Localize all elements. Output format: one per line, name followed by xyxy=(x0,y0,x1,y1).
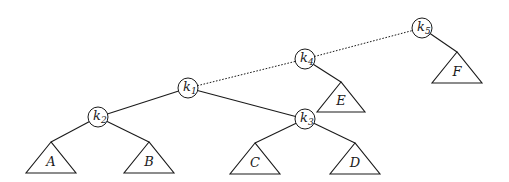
subtree-label: D xyxy=(349,155,361,170)
edge-k1-k2 xyxy=(98,88,188,117)
subtree-D: D xyxy=(330,143,380,174)
nodes-layer: k1k2k3k4k5 xyxy=(88,18,432,129)
subtree-C: C xyxy=(230,143,280,174)
subtree-label: A xyxy=(45,154,55,169)
subtree-A: A xyxy=(26,142,76,173)
node-k1: k1 xyxy=(178,78,198,98)
subtree-E: E xyxy=(317,82,365,112)
subtree-label: B xyxy=(143,154,154,169)
node-k5: k5 xyxy=(412,18,432,38)
tree-diagram: ABCDEF k1k2k3k4k5 xyxy=(0,0,509,182)
edge-k1-k4 xyxy=(188,59,305,88)
edge-k1-k3 xyxy=(188,88,305,119)
subtree-label: E xyxy=(335,93,346,108)
subtree-label: C xyxy=(250,155,260,170)
node-k4: k4 xyxy=(295,49,315,69)
edges-layer xyxy=(51,28,457,143)
node-k2: k2 xyxy=(88,107,108,127)
subtree-label: F xyxy=(451,64,462,79)
edge-k4-k5 xyxy=(305,28,422,59)
subtree-F: F xyxy=(432,52,482,83)
node-k3: k3 xyxy=(295,109,315,129)
tree-svg: ABCDEF k1k2k3k4k5 xyxy=(0,0,509,182)
subtree-B: B xyxy=(124,142,174,173)
